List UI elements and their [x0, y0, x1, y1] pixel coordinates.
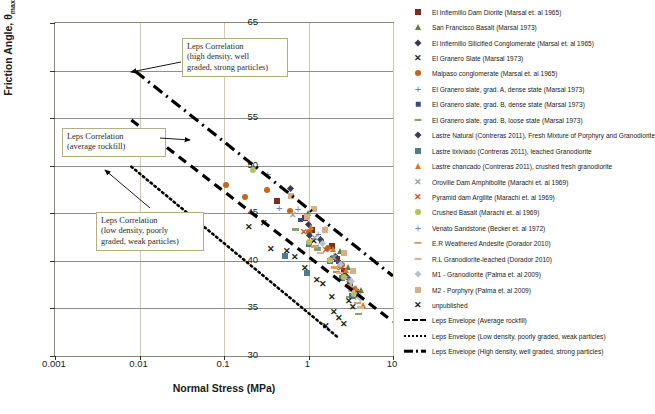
marker-line-dashdot [404, 350, 426, 353]
legend-marker: + [412, 84, 424, 94]
annotation-line: graded, strong particles) [187, 63, 283, 73]
legend-item[interactable]: ✕unpublished [404, 297, 654, 312]
marker-diamond [414, 39, 421, 46]
annotation-line: (high density, well [187, 52, 283, 62]
legend-marker [412, 207, 424, 217]
marker-diamond [414, 271, 421, 278]
legend-marker [412, 22, 424, 32]
marker-plus: + [415, 85, 421, 92]
legend-item[interactable]: +El Granero slate, grad. A, dense state … [404, 81, 654, 96]
legend-item[interactable]: Leps Envelope (High density, well graded… [404, 344, 654, 359]
legend-label: El Granero Slate (Marsal 1973) [432, 55, 523, 62]
legend-label: El Infiernillo Silicified Conglomerate (… [432, 39, 594, 46]
note-high: Leps Correlation(high density, wellgrade… [182, 38, 288, 77]
legend-item[interactable]: El Granero slate, grad. B, loose state (… [404, 112, 654, 127]
legend-marker [412, 238, 424, 248]
legend-item[interactable]: E.R Weathered Andesite (Dorador 2010) [404, 236, 654, 251]
legend-label: Lastre chancado (Contreras 2011), crushe… [432, 163, 612, 170]
legend-label: Leps Envelope (Average rockfill) [432, 317, 527, 324]
legend: El Infiernillo Dam Diorite (Marsal et. a… [404, 4, 654, 359]
x-axis-tick-label: 1 [305, 358, 310, 369]
legend-label: El Granero slate, grad. A, dense state (… [432, 85, 584, 92]
legend-marker: + [412, 223, 424, 233]
legend-label: M1 - Granodiorite (Palma et. al 2009) [432, 271, 541, 278]
marker-square [415, 9, 421, 15]
legend-marker [412, 115, 424, 125]
legend-label: San Francisco Basalt (Marsal 1973) [432, 24, 537, 31]
annotation-line: (average rockfill) [67, 142, 161, 152]
legend-marker [412, 7, 424, 17]
marker-x: ✕ [414, 55, 422, 62]
legend-marker [412, 161, 424, 171]
marker-square [415, 148, 421, 154]
legend-item[interactable]: Lastre lixiviado (Contreras 2011), leach… [404, 143, 654, 158]
marker-circle [415, 70, 421, 76]
legend-marker: ✕ [412, 177, 424, 187]
marker-triangle [415, 24, 421, 30]
legend-marker [412, 146, 424, 156]
legend-label: Pyramid dam Argilite (Marachi et. al 196… [432, 193, 555, 200]
legend-label: El Granero slate, grad. B, dense state (… [432, 101, 585, 108]
marker-small-square [416, 102, 421, 107]
marker-dash [415, 258, 422, 260]
legend-label: unpublished [432, 302, 468, 309]
legend-item[interactable]: El Infiernillo Silicified Conglomerate (… [404, 35, 654, 50]
legend-label: Venato Sandstone (Becker et. al 1972) [432, 224, 545, 231]
legend-item[interactable]: Crushed Basalt (Marachi et. al 1969) [404, 205, 654, 220]
annotation-line: Leps Correlation [101, 216, 199, 226]
legend-marker [412, 38, 424, 48]
legend-label: Lastre lixiviado (Contreras 2011), leach… [432, 147, 592, 154]
marker-x: ✕ [414, 193, 422, 200]
legend-item[interactable]: El Infiernillo Dam Diorite (Marsal et. a… [404, 4, 654, 19]
legend-item[interactable]: Leps Envelope (Average rockfill) [404, 313, 654, 328]
annotation-line: Leps Correlation [67, 132, 161, 142]
legend-marker [412, 130, 424, 140]
legend-item[interactable]: ✕Oroville Dam Amphibolite (Marachi et. a… [404, 174, 654, 189]
note-avg: Leps Correlation(average rockfill) [62, 128, 166, 157]
legend-item[interactable]: M2 - Porphyry (Palma et. al 2009) [404, 282, 654, 297]
x-axis-tick-label: 0.01 [129, 358, 148, 369]
legend-label: Oroville Dam Amphibolite (Marachi et. al… [432, 178, 568, 185]
legend-item[interactable]: San Francisco Basalt (Marsal 1973) [404, 19, 654, 34]
legend-label: El Infiernillo Dam Diorite (Marsal et. a… [432, 8, 561, 15]
envelope-line [131, 167, 337, 337]
x-axis-title: Normal Stress (MPa) [48, 382, 400, 394]
legend-item[interactable]: Malpaso conglomerate (Marsal et. al 1965… [404, 66, 654, 81]
legend-item[interactable]: Lastre chancado (Contreras 2011), crushe… [404, 158, 654, 173]
gridline-vertical [393, 23, 394, 356]
legend-item[interactable]: Lastre Natural (Contreras 2011), Fresh M… [404, 128, 654, 143]
legend-label: Leps Envelope (High density, well graded… [432, 348, 603, 355]
legend-label: Crushed Basalt (Marachi et. al 1969) [432, 209, 539, 216]
annotation-line: graded, weak particles) [101, 237, 199, 247]
legend-item[interactable]: El Granero slate, grad. B, dense state (… [404, 97, 654, 112]
legend-item[interactable]: M1 - Granodiorite (Palma et. al 2009) [404, 266, 654, 281]
legend-marker [412, 254, 424, 264]
legend-item[interactable]: ✕Pyramid dam Argilite (Marachi et. al 19… [404, 189, 654, 204]
legend-item[interactable]: ✕El Granero Slate (Marsal 1973) [404, 50, 654, 65]
legend-label: R.L Granodiorite-leached (Dorador 2010) [432, 255, 552, 262]
marker-line-dashed [404, 319, 426, 321]
marker-line-dotted [404, 335, 426, 337]
legend-item[interactable]: R.L Granodiorite-leached (Dorador 2010) [404, 251, 654, 266]
legend-item[interactable]: +Venato Sandstone (Becker et. al 1972) [404, 220, 654, 235]
annotation-line: (low density, poorly [101, 226, 199, 236]
legend-label: M2 - Porphyry (Palma et. al 2009) [432, 286, 531, 293]
marker-square [415, 287, 421, 293]
legend-marker [412, 285, 424, 295]
legend-marker: ✕ [412, 300, 424, 310]
legend-marker [412, 99, 424, 109]
marker-x: ✕ [414, 302, 422, 309]
legend-label: Malpaso conglomerate (Marsal et. al 1965… [432, 70, 557, 77]
x-axis-tick-label: 0.001 [42, 358, 66, 369]
marker-plus: + [415, 224, 421, 231]
marker-x: ✕ [414, 178, 422, 185]
marker-dash [415, 242, 422, 244]
marker-circle [415, 209, 421, 215]
legend-label: E.R Weathered Andesite (Dorador 2010) [432, 240, 551, 247]
marker-triangle [415, 163, 421, 169]
legend-item[interactable]: Leps Envelope (Low density, poorly grade… [404, 328, 654, 343]
legend-marker [412, 269, 424, 279]
y-axis-title: Friction Angle, θmax [2, 0, 16, 118]
legend-label: Lastre Natural (Contreras 2011), Fresh M… [432, 132, 655, 139]
